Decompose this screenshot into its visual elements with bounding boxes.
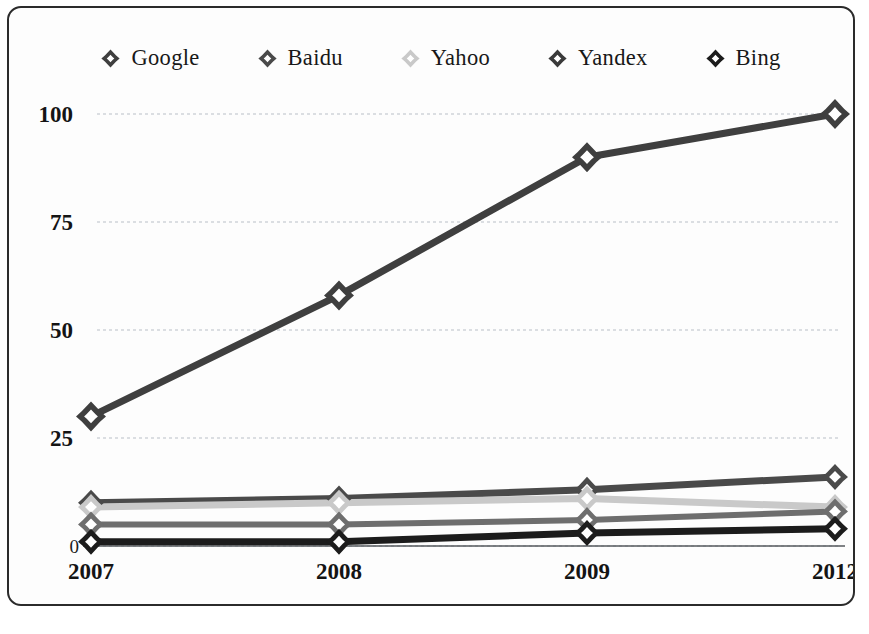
y-axis-tick-label: 25 <box>50 426 73 451</box>
series-line-yandex <box>91 511 835 524</box>
plot-area: 10075502502007200820092012 <box>9 8 855 606</box>
x-axis-tick-label: 2012 <box>812 559 855 584</box>
series-markers <box>76 99 850 555</box>
x-axis-tick-label: 2008 <box>316 559 362 584</box>
line-chart-svg: 10075502502007200820092012 <box>9 8 855 606</box>
x-axis-tick-label: 2009 <box>564 559 610 584</box>
y-axis-tick-label: 75 <box>50 210 73 235</box>
series-line-google <box>91 114 835 416</box>
y-axis-tick-label: 0 <box>70 536 80 557</box>
y-axis-tick-label: 100 <box>39 102 74 127</box>
series-lines <box>91 114 835 542</box>
chart-card: GoogleBaiduYahooYandexBing 1007550250200… <box>7 6 855 606</box>
y-axis-tick-label: 50 <box>50 318 73 343</box>
x-axis-ticks: 2007200820092012 <box>68 559 855 584</box>
y-axis-ticks: 1007550250 <box>39 102 80 557</box>
series-line-bing <box>91 529 835 542</box>
x-axis-tick-label: 2007 <box>68 559 114 584</box>
